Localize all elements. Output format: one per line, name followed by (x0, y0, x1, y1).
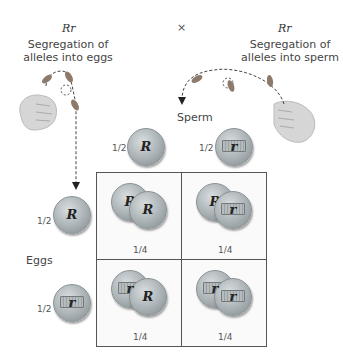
punnett-cell-rr: r r 1/4 (181, 259, 267, 347)
cell-fraction: 1/4 (133, 332, 147, 342)
sperm-fraction-R: 1/2 (112, 143, 126, 153)
sperm-coin-R: R (127, 128, 165, 166)
egg-fraction-r: 1/2 (37, 304, 51, 314)
egg-coin-R: R (53, 196, 91, 234)
cell-fraction: 1/4 (133, 245, 147, 255)
cell-fraction: 1/4 (218, 332, 232, 342)
left-hand-icon (20, 95, 57, 130)
punnett-cell-rR: r R 1/4 (96, 259, 182, 347)
sperm-fraction-r: 1/2 (199, 143, 213, 153)
sperm-label: Sperm (177, 111, 213, 124)
punnett-cell-RR: R R 1/4 (96, 172, 182, 260)
sperm-coin-r: r (215, 128, 253, 166)
punnett-cell-Rr: R r 1/4 (181, 172, 267, 260)
eggs-label: Eggs (26, 254, 53, 267)
egg-fraction-R: 1/2 (37, 216, 51, 226)
egg-coin-r: r (53, 284, 91, 322)
right-hand-icon (274, 101, 315, 142)
cell-fraction: 1/4 (218, 245, 232, 255)
